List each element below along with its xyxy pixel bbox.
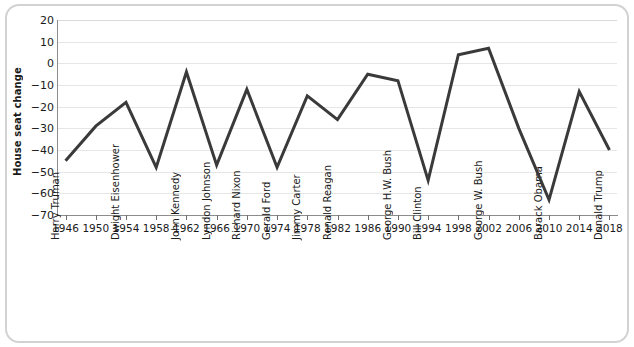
series-line-container <box>0 0 634 347</box>
house-seat-change-line <box>66 48 610 200</box>
